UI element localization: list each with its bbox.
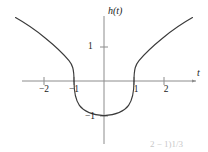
y-tick-label-plus-1: 1	[88, 42, 93, 52]
x-tick-label-minus-1: −1	[69, 85, 79, 95]
y-axis-label: h(t)	[108, 6, 122, 16]
plot-canvas	[0, 0, 208, 152]
curve-left-branch	[16, 18, 75, 81]
x-tick-label-minus-2: −2	[39, 85, 49, 95]
x-tick-label-plus-1: 1	[134, 85, 139, 95]
curve-right-branch	[134, 18, 193, 81]
function-plot-figure: h(t) t −2 −1 1 2 1 −1 2 − 1)1/3	[0, 0, 208, 152]
axes-group	[22, 16, 196, 144]
partial-formula-text: 2 − 1)1/3	[150, 139, 208, 152]
x-axis-label: t	[197, 68, 200, 78]
y-tick-label-minus-1: −1	[85, 112, 95, 122]
x-axis-arrow	[192, 79, 196, 82]
x-tick-label-plus-2: 2	[164, 85, 169, 95]
